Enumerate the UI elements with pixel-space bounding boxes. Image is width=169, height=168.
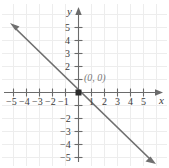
- y-tick-label: 4: [65, 36, 70, 46]
- y-axis-arrow-icon: [75, 7, 81, 15]
- y-tick-label: −4: [60, 140, 71, 150]
- x-tick-label: 3: [115, 97, 120, 107]
- coordinate-plane-graph: −5 −4 −3 −2 −1 1 2 3 4 5 5 4 3 2 −2 −3 −…: [0, 0, 169, 168]
- plotted-line-series: [10, 23, 156, 164]
- x-tick-label: −1: [58, 97, 69, 107]
- origin-point-label: (0, 0): [84, 73, 106, 83]
- graph-canvas: [0, 0, 169, 168]
- y-tick-label: 3: [65, 49, 70, 59]
- y-tick-label: −2: [60, 114, 71, 124]
- y-axis-label: y: [67, 6, 72, 17]
- x-tick-label: −4: [19, 97, 30, 107]
- x-tick-label: 5: [141, 97, 146, 107]
- x-tick-label: −3: [32, 97, 43, 107]
- x-tick-label: 4: [128, 97, 133, 107]
- x-tick-label: 2: [102, 97, 107, 107]
- y-tick-label: 2: [65, 62, 70, 72]
- line-arrow-upper-left-icon: [10, 23, 20, 31]
- y-tick-label: −3: [60, 127, 71, 137]
- x-tick-label: −2: [45, 97, 56, 107]
- x-tick-label: −5: [6, 97, 17, 107]
- y-tick-label: 5: [65, 23, 70, 33]
- axes: [4, 7, 163, 162]
- origin-point-marker: [76, 90, 82, 96]
- x-axis-label: x: [159, 95, 164, 106]
- y-tick-label: −5: [60, 153, 71, 163]
- x-tick-label: 1: [89, 97, 94, 107]
- grid-lines: [2, 4, 167, 166]
- line-segment: [15, 28, 150, 159]
